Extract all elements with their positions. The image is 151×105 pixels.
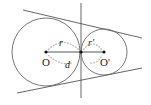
- radius-r-arc: [48, 43, 79, 51]
- lower-tangent-line: [17, 68, 142, 93]
- upper-tangent-line: [23, 10, 142, 38]
- label-r: r: [59, 37, 63, 48]
- center-point-o: [44, 50, 47, 53]
- distance-d-arc: [48, 55, 102, 64]
- tangent-point: [79, 50, 82, 53]
- label-d: d: [65, 59, 71, 70]
- center-point-o-prime: [102, 50, 105, 53]
- tangent-circles-diagram: r r' O d O': [0, 0, 151, 105]
- label-r-prime: r': [88, 37, 95, 48]
- label-o: O: [42, 56, 50, 68]
- label-o-prime: O': [100, 56, 110, 68]
